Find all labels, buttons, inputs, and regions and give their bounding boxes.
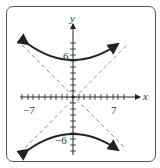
x-axis-label: x [142,90,148,102]
x-max-label: 7 [111,104,117,116]
hyperbola-chart: x y −7 7 6 −6 [0,0,160,168]
y-axis-label: y [69,12,75,24]
origin-point [71,95,74,98]
y-max-label: 6 [63,50,69,62]
y-min-label: −6 [55,134,67,146]
x-min-label: −7 [23,104,35,116]
